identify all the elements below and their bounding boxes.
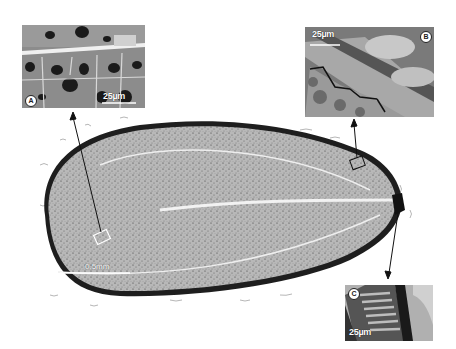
scale-label-c: 25µm — [349, 327, 371, 337]
inset-panel-c: C 25µm — [345, 285, 433, 341]
main-scale-label: 0.5mm — [85, 262, 109, 271]
panel-badge-b: B — [420, 31, 432, 43]
inset-panel-a: A 25µm — [22, 25, 145, 108]
panel-badge-c: C — [348, 288, 360, 300]
scale-label-b: 25µm — [312, 29, 334, 39]
micrograph-figure: 0.5mm A 25µm — [0, 0, 456, 349]
inset-panel-b: B 25µm — [305, 27, 434, 117]
scale-label-a: 25µm — [103, 91, 125, 101]
panel-badge-a: A — [25, 95, 37, 107]
